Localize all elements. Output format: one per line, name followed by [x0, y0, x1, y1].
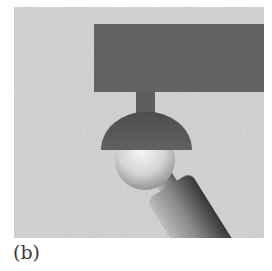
base-block — [94, 24, 264, 92]
panel-label: (b) — [13, 241, 40, 263]
joint-render — [14, 7, 264, 238]
socket-stem — [136, 91, 155, 115]
figure-panel-b — [14, 7, 264, 238]
